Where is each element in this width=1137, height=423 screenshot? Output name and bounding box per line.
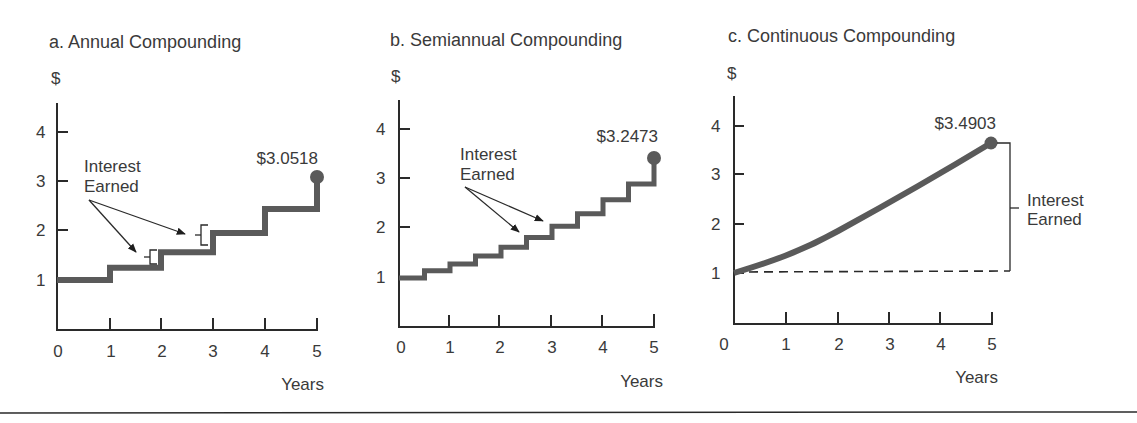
svg-text:4: 4 [598, 338, 607, 357]
svg-text:0: 0 [53, 342, 62, 361]
x-axis-label: Years [281, 375, 324, 394]
compounding-figure: a. Annual Compounding $ 4 3 2 1 0 1 [0, 0, 1137, 423]
y-tick-labels: 4 3 2 1 [36, 123, 45, 290]
svg-text:1: 1 [376, 268, 385, 287]
svg-text:2: 2 [36, 221, 45, 240]
svg-text:1: 1 [711, 264, 720, 283]
x-tick-labels: 0 1 2 3 4 5 [396, 338, 658, 357]
x-axis-label: Years [620, 372, 663, 391]
svg-text:5: 5 [649, 338, 658, 357]
chart-continuous: c. Continuous Compounding $ 4 3 2 1 0 1 … [711, 26, 1084, 387]
end-point-marker [647, 151, 661, 165]
end-point-marker [310, 170, 324, 184]
annotation-line2: Earned [84, 177, 139, 196]
chart-title: a. Annual Compounding [49, 32, 241, 52]
y-tick-labels: 4 3 2 1 [711, 117, 720, 283]
x-tick-labels: 0 1 2 3 4 5 [719, 335, 996, 354]
svg-text:2: 2 [376, 218, 385, 237]
x-axis-label: Years [955, 368, 998, 387]
svg-text:4: 4 [36, 123, 45, 142]
chart-semiannual: b. Semiannual Compounding $ 4 3 2 1 0 1 … [376, 30, 663, 391]
y-tick-labels: 4 3 2 1 [376, 120, 385, 287]
svg-text:3: 3 [711, 165, 720, 184]
series-line [734, 143, 991, 273]
svg-text:4: 4 [936, 335, 945, 354]
interest-bracket [997, 143, 1019, 271]
annotation-arrows [89, 200, 185, 252]
end-point-marker [985, 137, 998, 150]
svg-text:1: 1 [106, 342, 115, 361]
svg-text:3: 3 [547, 338, 556, 357]
figure-divider [0, 412, 1137, 413]
axes [56, 103, 318, 331]
y-axis-label: $ [727, 64, 737, 83]
annotation-line2: Earned [460, 165, 515, 184]
svg-text:3: 3 [208, 342, 217, 361]
svg-text:4: 4 [711, 117, 720, 136]
annotation-line1: Interest [84, 157, 141, 176]
svg-text:0: 0 [719, 335, 728, 354]
end-value-label: $3.0518 [257, 149, 318, 168]
svg-text:2: 2 [157, 342, 166, 361]
svg-text:3: 3 [885, 335, 894, 354]
y-axis-label: $ [51, 69, 61, 88]
svg-text:1: 1 [445, 338, 454, 357]
end-value-label: $3.2473 [597, 127, 658, 146]
annotation-line1: Interest [1027, 191, 1084, 210]
y-axis-label: $ [391, 67, 401, 86]
svg-text:0: 0 [396, 338, 405, 357]
svg-text:2: 2 [495, 338, 504, 357]
svg-text:1: 1 [36, 271, 45, 290]
svg-text:3: 3 [36, 172, 45, 191]
chart-title: b. Semiannual Compounding [390, 30, 622, 50]
end-value-label: $3.4903 [935, 114, 996, 133]
svg-text:1: 1 [781, 335, 790, 354]
svg-text:2: 2 [711, 215, 720, 234]
principal-baseline [734, 271, 1010, 272]
chart-annual: a. Annual Compounding $ 4 3 2 1 0 1 [36, 32, 324, 394]
annotation-line2: Earned [1027, 210, 1082, 229]
annotation-line1: Interest [460, 145, 517, 164]
svg-text:4: 4 [376, 120, 385, 139]
annotation-arrows [465, 187, 543, 232]
svg-text:3: 3 [376, 169, 385, 188]
svg-text:5: 5 [312, 342, 321, 361]
x-tick-labels: 0 1 2 3 4 5 [53, 342, 321, 361]
svg-text:4: 4 [260, 342, 269, 361]
series-line [399, 160, 654, 278]
svg-text:5: 5 [987, 335, 996, 354]
chart-title: c. Continuous Compounding [728, 26, 955, 46]
svg-text:2: 2 [834, 335, 843, 354]
